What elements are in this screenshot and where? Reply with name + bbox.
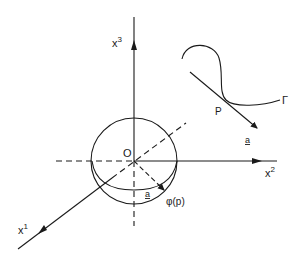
point-p-label: P — [215, 106, 222, 117]
x1-arrow-icon — [38, 225, 47, 234]
image-point-label: φ(p) — [166, 196, 185, 207]
tangent-vector-label: a — [245, 135, 250, 145]
x1-label: x1 — [18, 222, 29, 236]
x1-axis — [18, 178, 112, 249]
sphere-vector-a — [134, 161, 164, 190]
tangent-vector-a — [190, 72, 257, 128]
sphere-vector-label: a — [145, 189, 150, 199]
x2-arrow-icon — [252, 158, 262, 164]
x2-label: x2 — [265, 165, 276, 179]
curve-gamma — [182, 45, 280, 105]
curve-label: Γ — [282, 94, 288, 106]
diagram-canvas: x3 x2 x1 O a φ(p) Γ P a — [0, 0, 304, 263]
x3-label: x3 — [112, 35, 123, 49]
origin-label: O — [123, 147, 132, 159]
x3-arrow-icon — [131, 40, 137, 50]
